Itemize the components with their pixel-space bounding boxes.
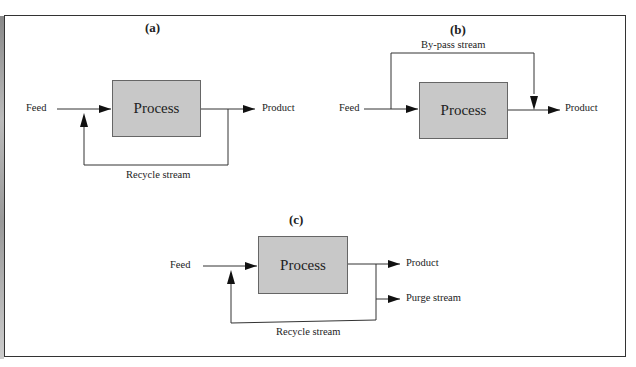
panel-c-purge-label: Purge stream <box>406 292 461 303</box>
panel-b-feed-label: Feed <box>339 102 359 113</box>
panel-a-recycle-label: Recycle stream <box>126 169 190 180</box>
flow-lines <box>0 0 636 367</box>
panel-c-process-box: Process <box>258 236 348 294</box>
panel-b-bypass-label: By-pass stream <box>421 39 485 50</box>
panel-c-title: (c) <box>289 212 303 228</box>
panel-b-process-box: Process <box>419 82 508 139</box>
panel-c-feed-label: Feed <box>170 259 190 270</box>
panel-a-process-box: Process <box>112 80 201 137</box>
panel-c-product-label: Product <box>406 257 439 268</box>
panel-a-title: (a) <box>145 20 160 36</box>
panel-c-recycle-label: Recycle stream <box>276 326 340 337</box>
panel-a-product-label: Product <box>262 102 295 113</box>
panel-b-product-label: Product <box>565 102 598 113</box>
panel-b-title: (b) <box>450 22 466 38</box>
panel-a-feed-label: Feed <box>26 102 46 113</box>
